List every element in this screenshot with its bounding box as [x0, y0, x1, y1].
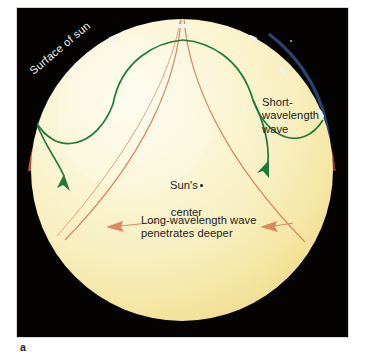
- label-suns-center: Sun's center: [170, 166, 203, 220]
- suns-center-dot-icon: [200, 184, 203, 187]
- diagram-black-panel: Surface of sun Short- wavelength wave Lo…: [17, 8, 348, 337]
- suns-center-line-2: center: [171, 206, 202, 218]
- figure-panel-a: Surface of sun Short- wavelength wave Lo…: [0, 0, 368, 359]
- limb-tick: [178, 24, 187, 28]
- suns-center-line-1: Sun's: [170, 179, 198, 191]
- star-speck: [290, 40, 292, 42]
- label-short-wavelength-wave: Short- wavelength wave: [262, 96, 319, 136]
- figure-part-letter: a: [20, 341, 26, 353]
